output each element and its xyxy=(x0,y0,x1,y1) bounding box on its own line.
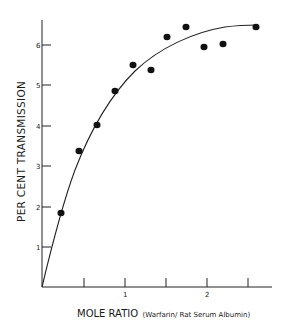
x-axis-label-main: MOLE RATIO xyxy=(77,308,138,319)
data-point xyxy=(76,148,83,154)
y-tick-label-2: 2 xyxy=(36,204,40,212)
y-tick-label-4: 4 xyxy=(36,123,41,131)
data-point xyxy=(253,24,260,30)
data-point xyxy=(201,44,208,50)
data-point xyxy=(130,62,137,68)
y-tick-label-3: 3 xyxy=(36,163,40,171)
y-tick-label-5: 5 xyxy=(36,82,40,90)
data-point xyxy=(58,210,65,216)
data-point xyxy=(112,88,119,94)
y-ticks xyxy=(42,45,51,247)
data-point xyxy=(220,41,227,47)
data-point xyxy=(164,34,171,40)
y-tick-label-6: 6 xyxy=(36,42,41,50)
data-point xyxy=(148,67,155,73)
data-point xyxy=(94,122,101,128)
y-axis-label: PER CENT TRANSMISSION xyxy=(15,81,27,222)
x-tick-label-1: 1 xyxy=(123,291,127,299)
x-axis-label: MOLE RATIO (Warfarin/ Rat Serum Albumin) xyxy=(77,303,250,320)
x-tick-label-2: 2 xyxy=(205,291,209,299)
chart: 1 2 3 4 5 6 1 2 PER CENT TRANSMISSION MO… xyxy=(0,0,285,330)
x-axis-label-sub: (Warfarin/ Rat Serum Albumin) xyxy=(143,311,251,319)
x-ticks xyxy=(84,278,248,287)
fitted-curve xyxy=(42,25,258,287)
y-tick-label-1: 1 xyxy=(36,244,40,252)
data-point xyxy=(183,24,190,30)
